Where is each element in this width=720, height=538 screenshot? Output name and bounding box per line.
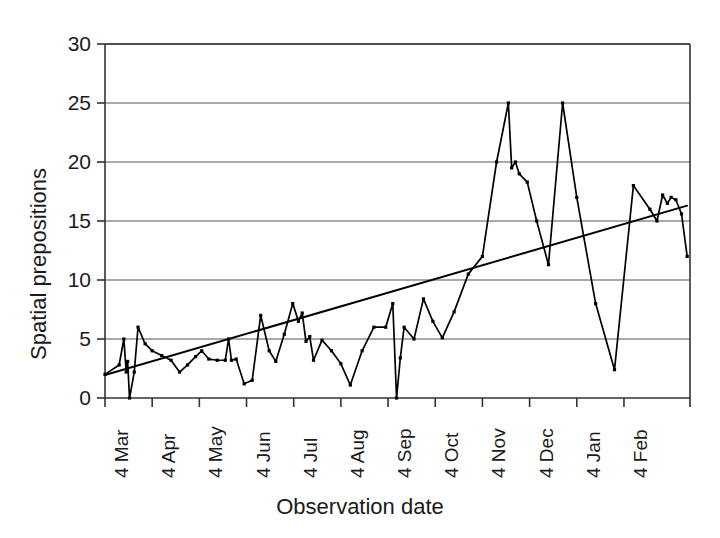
data-point-marker xyxy=(230,359,233,362)
data-point-marker xyxy=(186,363,189,366)
series-polyline xyxy=(105,103,687,398)
data-point-marker xyxy=(330,349,333,352)
data-point-marker xyxy=(384,326,387,329)
x-tick-label: 4 Oct xyxy=(442,433,461,478)
data-point-marker xyxy=(227,337,230,340)
data-point-marker xyxy=(169,359,172,362)
y-tick-label: 30 xyxy=(51,33,91,54)
data-point-marker xyxy=(632,184,635,187)
data-point-marker xyxy=(391,302,394,305)
data-point-marker xyxy=(136,326,139,329)
x-tick-label: 4 Jun xyxy=(254,432,273,478)
data-point-marker xyxy=(194,355,197,358)
x-tick-label: 4 Jan xyxy=(584,432,603,478)
y-axis-title: Spatial prepositions xyxy=(28,168,50,360)
data-point-marker xyxy=(518,172,521,175)
data-point-marker xyxy=(224,359,227,362)
data-point-marker xyxy=(200,349,203,352)
data-point-marker xyxy=(453,310,456,313)
data-point-marker xyxy=(361,349,364,352)
y-tick-label: 0 xyxy=(51,387,91,408)
data-point-marker xyxy=(507,101,510,104)
data-point-marker xyxy=(403,326,406,329)
data-point-marker xyxy=(399,356,402,359)
y-tick-label: 10 xyxy=(51,269,91,290)
x-tick-label: 4 Feb xyxy=(631,429,650,478)
data-point-marker xyxy=(655,219,658,222)
data-point-marker xyxy=(274,360,277,363)
y-axis-ticks xyxy=(97,44,105,398)
y-tick-label: 15 xyxy=(51,210,91,231)
data-point-marker xyxy=(395,396,398,399)
grid-lines xyxy=(105,44,690,339)
data-point-marker xyxy=(126,360,129,363)
data-point-marker xyxy=(431,320,434,323)
data-point-marker xyxy=(118,363,121,366)
data-point-marker xyxy=(666,202,669,205)
x-tick-label: 4 Mar xyxy=(112,429,131,478)
chart-figure: 051015202530 4 Mar4 Apr4 May4 Jun4 Jul4 … xyxy=(0,0,720,538)
data-point-marker xyxy=(535,219,538,222)
data-point-marker xyxy=(128,396,131,399)
data-point-marker xyxy=(259,314,262,317)
data-point-marker xyxy=(151,349,154,352)
data-point-marker xyxy=(320,339,323,342)
data-point-marker xyxy=(268,349,271,352)
data-point-marker xyxy=(372,326,375,329)
x-tick-label: 4 Aug xyxy=(348,429,367,478)
x-tick-label: 4 Apr xyxy=(159,434,178,478)
data-point-marker xyxy=(547,263,550,266)
data-point-marker xyxy=(613,368,616,371)
data-point-marker xyxy=(301,311,304,314)
data-point-marker xyxy=(495,160,498,163)
data-point-marker xyxy=(349,383,352,386)
data-point-marker xyxy=(308,335,311,338)
data-point-marker xyxy=(251,379,254,382)
data-point-marker xyxy=(481,255,484,258)
data-point-markers xyxy=(103,101,688,399)
trend-polyline xyxy=(105,206,687,375)
data-point-marker xyxy=(510,166,513,169)
data-point-marker xyxy=(178,370,181,373)
data-point-marker xyxy=(514,160,517,163)
data-point-marker xyxy=(133,370,136,373)
data-point-marker xyxy=(648,208,651,211)
data-point-marker xyxy=(441,336,444,339)
data-point-marker xyxy=(297,320,300,323)
data-point-marker xyxy=(674,198,677,201)
data-point-marker xyxy=(561,101,564,104)
data-point-marker xyxy=(216,359,219,362)
x-axis-title: Observation date xyxy=(0,496,720,518)
data-point-marker xyxy=(680,212,683,215)
y-tick-label: 25 xyxy=(51,92,91,113)
data-point-marker xyxy=(422,297,425,300)
data-point-marker xyxy=(291,302,294,305)
data-point-marker xyxy=(594,302,597,305)
x-tick-label: 4 Jul xyxy=(301,438,320,478)
data-point-marker xyxy=(670,196,673,199)
data-point-marker xyxy=(526,180,529,183)
data-point-marker xyxy=(339,362,342,365)
data-point-marker xyxy=(412,337,415,340)
y-tick-label: 5 xyxy=(51,328,91,349)
y-tick-label: 20 xyxy=(51,151,91,172)
x-tick-label: 4 May xyxy=(206,426,225,478)
data-point-marker xyxy=(122,337,125,340)
trend-line xyxy=(105,206,687,375)
data-point-marker xyxy=(304,340,307,343)
data-point-marker xyxy=(686,255,689,258)
data-point-marker xyxy=(144,342,147,345)
data-point-marker xyxy=(661,193,664,196)
data-point-marker xyxy=(160,354,163,357)
data-series-line xyxy=(105,103,687,398)
data-point-marker xyxy=(575,196,578,199)
x-tick-label: 4 Dec xyxy=(537,428,556,478)
data-point-marker xyxy=(103,373,106,376)
data-point-marker xyxy=(207,357,210,360)
data-point-marker xyxy=(467,273,470,276)
x-tick-label: 4 Nov xyxy=(489,428,508,478)
data-point-marker xyxy=(283,333,286,336)
x-tick-label: 4 Sep xyxy=(395,428,414,478)
data-point-marker xyxy=(312,359,315,362)
data-point-marker xyxy=(243,382,246,385)
